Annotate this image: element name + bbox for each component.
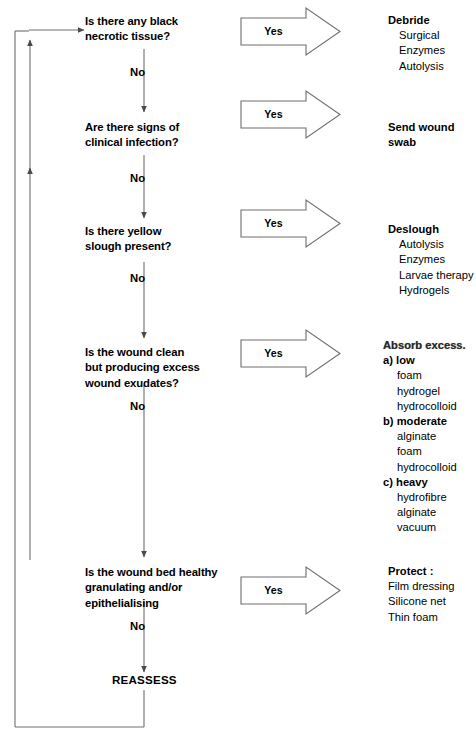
no-label-exudate: No <box>130 400 145 413</box>
action-item: Autolysis <box>388 59 445 74</box>
question-necrotic: Is there any black necrotic tissue? <box>85 14 178 45</box>
action-send-swab: Send wound swab <box>388 120 476 150</box>
action-item: hydrocolloid <box>383 460 466 475</box>
action-item: Film dressing <box>388 579 455 594</box>
action-item: alginate <box>383 505 466 520</box>
action-heading: Protect : <box>388 564 455 579</box>
action-group-label: c) heavy <box>383 475 466 490</box>
action-item: Enzymes <box>388 43 445 58</box>
question-granulating: Is the wound bed healthy granulating and… <box>85 565 218 611</box>
action-item: Larvae therapy <box>388 268 474 283</box>
action-group-label: a) low <box>383 353 466 368</box>
question-infection: Are there signs of clinical infection? <box>85 120 179 151</box>
yes-label-necrotic: Yes <box>241 25 306 37</box>
action-group-label: b) moderate <box>383 414 466 429</box>
yes-label-infection: Yes <box>241 108 306 120</box>
action-protect: Protect : Film dressing Silicone net Thi… <box>388 564 455 625</box>
action-item: hydrocolloid <box>383 399 466 414</box>
action-heading: Absorb excess. <box>383 338 466 353</box>
action-item: Autolysis <box>388 237 474 252</box>
yes-label-exudate: Yes <box>241 347 306 359</box>
action-item: vacuum <box>383 520 466 535</box>
action-absorb-excess: Absorb excess. a) low foam hydrogel hydr… <box>383 338 466 536</box>
terminal-reassess: REASSESS <box>112 673 177 686</box>
flowchart-page: Is there any black necrotic tissue? Yes … <box>0 0 476 734</box>
action-item: Silicone net <box>388 594 455 609</box>
action-item: Enzymes <box>388 252 474 267</box>
action-item: foam <box>383 444 466 459</box>
action-item: Thin foam <box>388 610 455 625</box>
no-label-infection: No <box>130 172 145 185</box>
question-exudate: Is the wound clean but producing excess … <box>85 345 200 391</box>
action-item: Hydrogels <box>388 283 474 298</box>
no-label-necrotic: No <box>130 66 145 79</box>
action-heading: Send wound swab <box>388 120 476 150</box>
action-deslough: Deslough Autolysis Enzymes Larvae therap… <box>388 222 474 298</box>
flowchart-text-layer: Is there any black necrotic tissue? Yes … <box>0 0 476 734</box>
action-item: foam <box>383 368 466 383</box>
yes-label-granulating: Yes <box>241 584 306 596</box>
no-label-granulating: No <box>130 620 145 633</box>
action-item: alginate <box>383 429 466 444</box>
question-slough: Is there yellow slough present? <box>85 224 171 255</box>
action-heading: Debride <box>388 13 445 28</box>
action-item: hydrogel <box>383 384 466 399</box>
action-item: hydrofibre <box>383 490 466 505</box>
action-item: Surgical <box>388 28 445 43</box>
action-heading: Deslough <box>388 222 474 237</box>
action-debride: Debride Surgical Enzymes Autolysis <box>388 13 445 74</box>
yes-label-slough: Yes <box>241 217 306 229</box>
no-label-slough: No <box>130 272 145 285</box>
